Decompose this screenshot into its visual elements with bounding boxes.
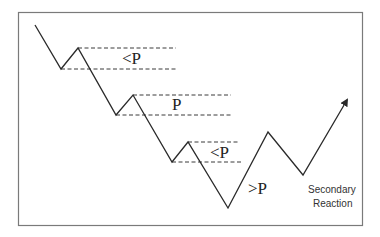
zone-1-label: <P bbox=[122, 49, 141, 68]
zone-3-label: <P bbox=[210, 143, 229, 162]
secondary-reaction-label-line-1: Secondary bbox=[308, 184, 356, 195]
secondary-reaction-label-line-2: Reaction bbox=[313, 198, 352, 209]
zone-2-label: P bbox=[172, 95, 181, 114]
price-action-diagram: <P P <P >P Secondary Reaction bbox=[0, 0, 380, 237]
rally-label: >P bbox=[248, 179, 267, 198]
